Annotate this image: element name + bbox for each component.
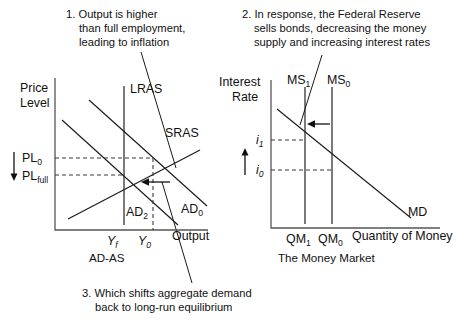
- i1-tick-label: i1: [256, 133, 264, 149]
- money-market-y-axis-label-line1: Interest: [219, 75, 261, 89]
- ad2-label: AD2: [126, 205, 148, 221]
- ad-as-caption: AD-AS: [89, 251, 125, 264]
- ad-as-x-axis-label: Output: [172, 229, 210, 243]
- ad0-curve: [89, 100, 207, 206]
- yf-tick-label: Yf: [107, 234, 119, 250]
- annotation-1: 1. Output is higher than full employment…: [66, 8, 185, 168]
- annotation-1-line-1: 1. Output is higher: [66, 8, 158, 20]
- plfull-tick-label: PLfull: [22, 169, 48, 185]
- ms1-label: MS1: [287, 73, 311, 89]
- ms0-label: MS0: [327, 73, 351, 89]
- price-level-down-arrow: [11, 152, 18, 181]
- annotation-2-leader-line: [300, 55, 322, 125]
- md-curve: [277, 109, 411, 218]
- annotation-1-leader-line: [141, 52, 176, 168]
- pl0-tick-label: PL0: [22, 151, 42, 167]
- annotation-3-line-2: back to long-run equilibrium: [95, 301, 232, 313]
- interest-rate-up-arrow: [242, 148, 249, 175]
- qm1-tick-label: QM1: [286, 232, 311, 248]
- annotation-1-line-3: leading to inflation: [79, 36, 169, 48]
- ms-shift-left-arrow: [307, 120, 330, 127]
- annotation-2-line-1: 2. In response, the Federal Reserve: [242, 8, 420, 20]
- annotation-3-line-1: 3. Which shifts aggregate demand: [82, 287, 252, 299]
- i0-tick-label: i0: [256, 163, 264, 179]
- money-market-x-axis-label: Quantity of Money: [352, 229, 453, 243]
- annotation-2-line-3: supply and increasing interest rates: [254, 36, 430, 48]
- figure-canvas: 1. Output is higher than full employment…: [0, 0, 467, 331]
- economics-diagram: 1. Output is higher than full employment…: [0, 0, 467, 331]
- sras-label: SRAS: [165, 126, 199, 140]
- ad2-curve: [62, 120, 178, 225]
- md-label: MD: [408, 205, 427, 219]
- annotation-2-line-2: sells bonds, decreasing the money: [254, 22, 427, 34]
- money-market-panel: Interest Rate Quantity of Money MS1 MS0 …: [219, 73, 453, 264]
- money-market-caption: The Money Market: [278, 251, 375, 264]
- qm0-tick-label: QM0: [318, 232, 343, 248]
- lras-label: LRAS: [130, 82, 162, 96]
- ad-shift-left-arrow: [141, 178, 170, 185]
- annotation-1-line-2: than full employment,: [79, 22, 185, 34]
- ad0-label: AD0: [181, 202, 203, 218]
- ad-as-panel: Price Level Output LRAS SRAS AD0 AD2 PL: [11, 78, 210, 264]
- ad-as-y-axis-label-line2: Level: [20, 96, 50, 110]
- ad-as-y-axis-label-line1: Price: [20, 81, 48, 95]
- y0-tick-label: Y0: [138, 234, 151, 250]
- money-market-y-axis-label-line2: Rate: [232, 90, 258, 104]
- annotation-2: 2. In response, the Federal Reserve sell…: [242, 8, 430, 125]
